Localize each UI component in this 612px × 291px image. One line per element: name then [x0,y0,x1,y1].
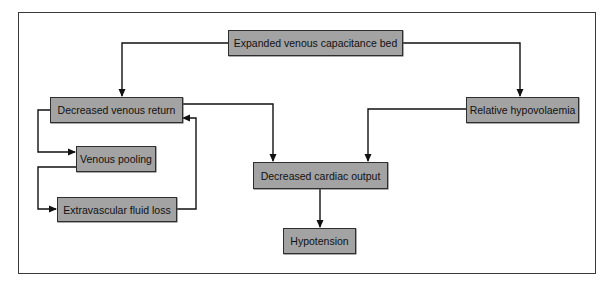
node-label: Extravascular fluid loss [63,204,170,216]
node-label: Decreased cardiac output [261,170,381,182]
node-decreased-venous-return: Decreased venous return [50,97,183,123]
node-label: Decreased venous return [58,104,176,116]
node-venous-pooling: Venous pooling [76,146,156,172]
node-label: Expanded venous capacitance bed [234,37,397,49]
node-decreased-cardiac-output: Decreased cardiac output [253,162,388,189]
node-label: Hypotension [290,235,348,247]
node-expanded-venous-capacitance-bed: Expanded venous capacitance bed [228,30,403,56]
node-relative-hypovolaemia: Relative hypovolaemia [466,97,579,123]
node-label: Relative hypovolaemia [470,104,576,116]
node-label: Venous pooling [80,153,152,165]
node-extravascular-fluid-loss: Extravascular fluid loss [57,197,177,222]
node-hypotension: Hypotension [283,228,356,254]
